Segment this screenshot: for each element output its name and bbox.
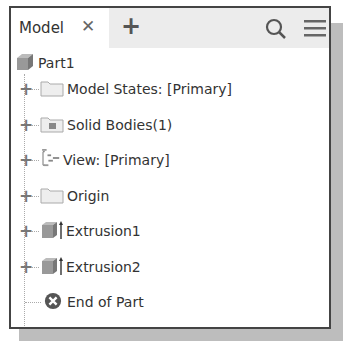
extrusion-icon	[41, 256, 65, 276]
model-browser-panel: Model ✕ + Part1 + Model States: [Primary…	[9, 6, 331, 329]
solid-bodies-folder-icon	[40, 115, 64, 133]
tab-label: Model	[19, 19, 64, 37]
folder-icon	[40, 186, 64, 204]
tab-model[interactable]: Model ✕	[11, 8, 109, 48]
search-icon[interactable]	[264, 17, 288, 45]
tree-label: Model States: [Primary]	[67, 81, 232, 97]
close-icon[interactable]: ✕	[81, 16, 95, 36]
tree-label: Extrusion1	[66, 223, 141, 239]
tree-label: Origin	[67, 188, 109, 204]
plus-icon[interactable]: +	[121, 12, 141, 40]
end-of-part-icon	[43, 292, 63, 310]
folder-icon	[40, 79, 64, 97]
browser-header: Model ✕ +	[11, 8, 329, 48]
tree-label: Extrusion2	[66, 259, 141, 275]
tree-label: Part1	[38, 55, 75, 71]
view-rep-icon	[40, 149, 64, 167]
tree-label: End of Part	[67, 294, 144, 310]
extrusion-icon	[41, 220, 65, 240]
part-icon	[15, 53, 35, 71]
tree-label: Solid Bodies(1)	[67, 117, 172, 133]
hamburger-menu-icon[interactable]	[304, 19, 326, 41]
tree-label: View: [Primary]	[63, 152, 170, 168]
